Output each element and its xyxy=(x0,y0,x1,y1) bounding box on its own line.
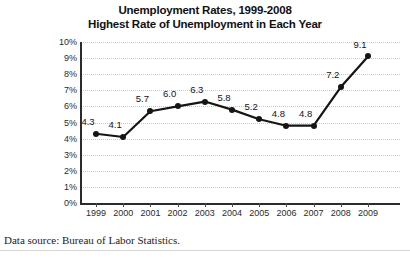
chart-title-block: Unemployment Rates, 1999-2008 Highest Ra… xyxy=(0,3,410,31)
y-axis-tick-label: 6% xyxy=(17,102,77,111)
x-axis-tick xyxy=(205,203,206,207)
x-axis-line xyxy=(80,203,400,205)
x-axis-tick xyxy=(314,203,315,207)
footer-divider xyxy=(0,250,410,251)
x-axis-tick-label: 2009 xyxy=(348,208,388,218)
plot-area: 4.34.15.76.06.35.85.24.84.87.29.1 xyxy=(80,42,400,203)
x-axis-tick xyxy=(150,203,151,207)
data-point-label: 9.1 xyxy=(340,40,380,50)
data-point-label: 4.1 xyxy=(95,120,135,130)
x-axis-tick xyxy=(123,203,124,207)
x-axis-tick xyxy=(286,203,287,207)
data-point-marker xyxy=(311,123,317,129)
y-axis-tick-label: 0% xyxy=(17,199,77,208)
y-axis-tick-label: 4% xyxy=(17,135,77,144)
y-axis-tick-label: 9% xyxy=(17,54,77,63)
x-axis-tick xyxy=(232,203,233,207)
x-axis-tick xyxy=(259,203,260,207)
x-axis-tick xyxy=(341,203,342,207)
x-axis-tick xyxy=(178,203,179,207)
y-axis-tick-label: 7% xyxy=(17,86,77,95)
data-point-label: 5.8 xyxy=(204,93,244,103)
page-title: Unemployment Rates, 1999-2008 xyxy=(0,3,410,17)
data-point-marker xyxy=(93,131,99,137)
y-axis-tick-label: 1% xyxy=(17,183,77,192)
data-point-marker xyxy=(338,84,344,90)
data-point-label: 4.8 xyxy=(286,109,326,119)
x-axis-tick xyxy=(368,203,369,207)
chart-subtitle: Highest Rate of Unemployment in Each Yea… xyxy=(0,17,410,31)
source-note: Data source: Bureau of Labor Statistics. xyxy=(4,234,180,247)
y-axis-tick-label: 10% xyxy=(17,38,77,47)
y-axis-tick-label: 3% xyxy=(17,151,77,160)
x-axis-tick xyxy=(96,203,97,207)
data-point-label: 7.2 xyxy=(313,70,353,80)
y-axis-tick-label: 8% xyxy=(17,70,77,79)
y-axis-tick-label: 2% xyxy=(17,167,77,176)
